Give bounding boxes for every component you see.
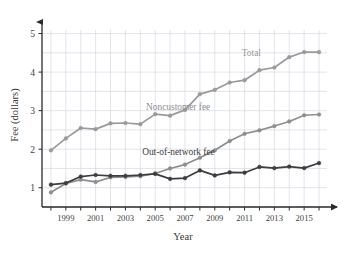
data-point — [94, 127, 98, 131]
data-point — [273, 66, 277, 70]
axis-lines — [42, 22, 337, 207]
data-point — [243, 78, 247, 82]
data-point — [198, 169, 202, 173]
data-point — [183, 176, 187, 180]
chart-figure: 12345 1999200120032005200720092011201320… — [0, 0, 347, 253]
series-annotation-total: Total — [242, 48, 262, 58]
data-point — [183, 163, 187, 167]
y-tick-label: 4 — [30, 67, 35, 78]
y-tick-label: 1 — [30, 182, 35, 193]
y-tick-label: 5 — [30, 28, 35, 39]
data-point — [287, 55, 291, 59]
x-tick-label: 2011 — [236, 213, 253, 223]
data-point — [64, 137, 68, 141]
data-point — [228, 81, 232, 85]
x-tick-label: 2005 — [147, 213, 164, 223]
data-point — [213, 174, 217, 178]
data-point — [153, 112, 157, 116]
x-tick-label: 2009 — [206, 213, 223, 223]
data-point — [109, 122, 113, 126]
data-point — [302, 113, 306, 117]
data-point — [243, 171, 247, 175]
data-point — [168, 167, 172, 171]
data-point — [213, 88, 217, 92]
data-point — [198, 92, 202, 96]
data-point — [317, 50, 321, 54]
y-axis-ticks: 12345 — [30, 28, 42, 193]
series-annotations: TotalNoncustomer feeOut-of-network fee — [142, 48, 261, 157]
x-tick-label: 2007 — [176, 213, 194, 223]
data-point — [79, 126, 83, 130]
y-tick-label: 2 — [30, 144, 35, 155]
data-point — [49, 183, 53, 187]
data-point — [138, 122, 142, 126]
x-tick-label: 2013 — [266, 213, 283, 223]
line-chart: 12345 1999200120032005200720092011201320… — [0, 0, 347, 253]
data-point — [168, 114, 172, 118]
data-point — [138, 173, 142, 177]
data-point — [258, 68, 262, 72]
data-point — [49, 191, 53, 195]
data-point — [94, 180, 98, 184]
y-axis-title: Fee (dollars) — [9, 88, 21, 142]
data-point — [94, 173, 98, 177]
y-tick-label: 3 — [30, 105, 35, 116]
data-point — [287, 165, 291, 169]
data-point — [258, 165, 262, 169]
data-point — [109, 174, 113, 178]
data-point — [302, 166, 306, 170]
data-point — [258, 128, 262, 132]
data-point — [124, 174, 128, 178]
data-point — [49, 148, 53, 152]
data-point — [228, 139, 232, 143]
data-point — [79, 175, 83, 179]
data-point — [124, 121, 128, 125]
data-point — [64, 181, 68, 185]
data-point — [302, 50, 306, 54]
data-point — [243, 132, 247, 136]
series-annotation-out-of-network-fee: Out-of-network fee — [142, 147, 215, 157]
data-point — [273, 166, 277, 170]
data-point — [153, 172, 157, 176]
x-tick-label: 2001 — [87, 213, 104, 223]
x-tick-label: 2015 — [296, 213, 313, 223]
x-tick-label: 1999 — [57, 213, 74, 223]
data-point — [273, 124, 277, 128]
x-tick-label: 2003 — [117, 213, 134, 223]
x-axis-title: Year — [173, 231, 193, 242]
data-point — [168, 177, 172, 181]
data-point — [317, 161, 321, 165]
x-axis-ticks: 199920012003200520072009201120132015 — [51, 207, 319, 223]
data-point — [317, 113, 321, 117]
data-point — [287, 120, 291, 124]
series-annotation-noncustomer-fee: Noncustomer fee — [146, 102, 210, 112]
data-point — [228, 170, 232, 174]
